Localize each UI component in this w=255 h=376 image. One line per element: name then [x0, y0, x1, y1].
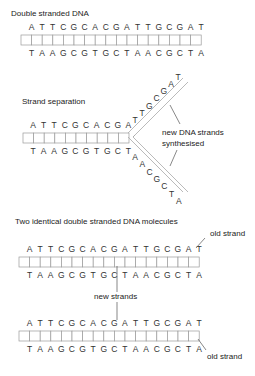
- base-letter: T: [196, 244, 201, 254]
- section1-title: Double stranded DNA: [11, 9, 89, 18]
- molecule1-bottom-strand: TAAGCGTGCTAACGCTA: [27, 270, 202, 280]
- base-letter: G: [79, 344, 86, 354]
- section2-base-pair-boxes: [23, 133, 129, 143]
- base-letter: G: [113, 22, 120, 32]
- base-letter: T: [92, 48, 97, 58]
- base-letter: C: [147, 167, 153, 177]
- base-letter: A: [122, 244, 128, 254]
- base-letter: G: [79, 270, 86, 280]
- base-letter: A: [198, 48, 204, 58]
- base-letter: A: [27, 318, 33, 328]
- base-letter: A: [124, 22, 130, 32]
- new-strands-label: new strands: [94, 292, 137, 301]
- base-letter: C: [115, 146, 121, 156]
- base-pair-box: [34, 133, 45, 143]
- dna-replication-diagram: Double stranded DNA ATTCGCACGATTGCGAT TA…: [0, 0, 255, 376]
- base-letter: G: [102, 48, 109, 58]
- base-letter: G: [104, 146, 111, 156]
- base-letter: T: [41, 120, 46, 130]
- base-pair-box: [83, 331, 94, 341]
- base-pair-box: [157, 331, 168, 341]
- base-letter: G: [69, 244, 76, 254]
- annotation-pointer-upper: [170, 105, 180, 124]
- base-pair-box: [118, 133, 129, 143]
- base-pair-box: [104, 257, 115, 267]
- base-pair-box: [30, 331, 41, 341]
- base-letter: C: [103, 22, 109, 32]
- base-pair-box: [189, 257, 200, 267]
- base-letter: A: [92, 22, 98, 32]
- base-letter: G: [155, 22, 162, 32]
- base-letter: G: [166, 48, 173, 58]
- base-letter: G: [175, 318, 182, 328]
- section1-bottom-strand: TAAGCGTGCTAACGCTA: [29, 48, 204, 58]
- base-letter: C: [58, 318, 64, 328]
- base-pair-box: [136, 331, 147, 341]
- base-letter: A: [126, 120, 132, 130]
- base-letter: T: [188, 48, 193, 58]
- base-pair-box: [108, 133, 119, 143]
- base-letter: C: [79, 318, 85, 328]
- base-letter: G: [175, 244, 182, 254]
- base-letter: A: [188, 22, 194, 32]
- base-pair-box: [178, 331, 189, 341]
- base-pair-box: [146, 331, 157, 341]
- base-pair-box: [93, 331, 104, 341]
- base-letter: C: [69, 270, 75, 280]
- base-letter: C: [156, 48, 162, 58]
- base-pair-box: [116, 35, 127, 45]
- base-pair-box: [104, 331, 115, 341]
- base-pair-box: [63, 35, 74, 45]
- base-letter: A: [51, 146, 57, 156]
- section2-paired-bottom-strand: TAAGCGTGCT: [30, 146, 131, 156]
- base-letter: T: [27, 344, 32, 354]
- base-letter: G: [111, 244, 118, 254]
- base-pair-box: [65, 133, 76, 143]
- base-pair-box: [157, 257, 168, 267]
- base-letter: A: [29, 22, 35, 32]
- molecule1-top-strand: ATTCGCACGATTGCGAT: [27, 244, 202, 254]
- base-letter: G: [111, 318, 118, 328]
- base-letter: A: [196, 344, 202, 354]
- base-letter: G: [61, 146, 68, 156]
- base-letter: T: [169, 189, 174, 199]
- base-letter: C: [58, 244, 64, 254]
- base-letter: T: [37, 318, 42, 328]
- base-letter: A: [186, 318, 192, 328]
- base-pair-box: [93, 257, 104, 267]
- base-pair-box: [180, 35, 191, 45]
- annotation-pointer-lower: [170, 150, 177, 166]
- base-letter: C: [154, 270, 160, 280]
- base-letter: A: [132, 152, 138, 162]
- molecule2-base-pair-boxes: [19, 331, 199, 341]
- base-letter: T: [186, 344, 191, 354]
- base-pair-box: [51, 331, 62, 341]
- base-pair-box: [32, 35, 43, 45]
- base-pair-box: [106, 35, 117, 45]
- base-letter: G: [177, 22, 184, 32]
- base-letter: T: [176, 72, 181, 82]
- base-letter: T: [122, 270, 127, 280]
- base-letter: A: [196, 270, 202, 280]
- base-letter: A: [48, 270, 54, 280]
- base-letter: A: [94, 120, 100, 130]
- base-letter: A: [135, 48, 141, 58]
- base-pair-box: [40, 257, 51, 267]
- base-letter: G: [72, 120, 79, 130]
- base-letter: A: [133, 270, 139, 280]
- base-letter: A: [139, 159, 145, 169]
- base-letter: T: [27, 270, 32, 280]
- base-letter: A: [90, 318, 96, 328]
- base-letter: T: [126, 146, 131, 156]
- base-letter: T: [124, 48, 129, 58]
- base-pair-box: [169, 35, 180, 45]
- base-letter: G: [69, 318, 76, 328]
- base-pair-box: [167, 257, 178, 267]
- base-letter: A: [41, 146, 47, 156]
- molecule2-top-strand: ATTCGCACGATTGCGAT: [27, 318, 202, 328]
- base-pair-box: [61, 331, 72, 341]
- base-pair-box: [53, 35, 64, 45]
- section3-title: Two identical double stranded DNA molecu…: [15, 217, 178, 226]
- base-letter: T: [48, 244, 53, 254]
- base-letter: G: [58, 270, 65, 280]
